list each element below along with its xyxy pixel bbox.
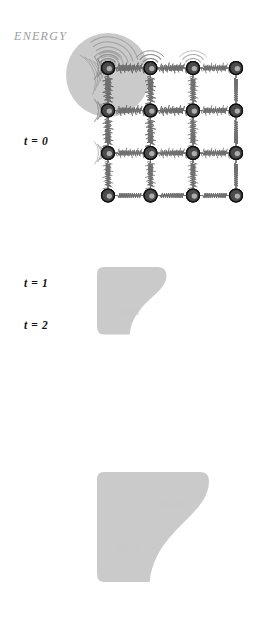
atom-node-highlight [235,151,240,156]
atom-node-highlight [192,193,197,198]
energy-callout-label: ENERGY [14,29,67,44]
heat-blob [97,472,209,582]
heat-region-group [97,472,209,582]
heat-blob [97,267,167,335]
heat-label: HEAT [116,307,142,317]
heat-label: HEAT [159,500,185,510]
atom-node-highlight [192,66,197,71]
atom-node-highlight [235,108,240,113]
lattice-svg-t2: HEATHEAT [0,415,254,623]
panel-t1: HEAT t = 1 [0,210,254,415]
atom-node-highlight [235,66,240,71]
atom-node-highlight [107,151,112,156]
heat-diffusion-figure: ENERGY t = 0 HEAT t = 1 HEATHEAT t = 2 [0,0,254,623]
atom-node-highlight [149,193,154,198]
atom-node-highlight [192,151,197,156]
atom-node-highlight [149,66,154,71]
atom-node-highlight [107,108,112,113]
atom-node-highlight [107,193,112,198]
panel-t2: HEATHEAT t = 2 [0,415,254,623]
atom-node-highlight [107,66,112,71]
atom-node-highlight [149,108,154,113]
time-label-t1: t = 1 [24,277,48,289]
atom-node-highlight [192,108,197,113]
lattice-svg-t1: HEAT [0,210,254,415]
time-label-t0: t = 0 [24,135,48,147]
heat-region-group [97,267,167,335]
atom-node-highlight [149,151,154,156]
atom-node-highlight [235,193,240,198]
panel-t0: ENERGY t = 0 [0,0,254,210]
heat-label: HEAT [116,542,142,552]
time-label-t2: t = 2 [24,319,48,331]
